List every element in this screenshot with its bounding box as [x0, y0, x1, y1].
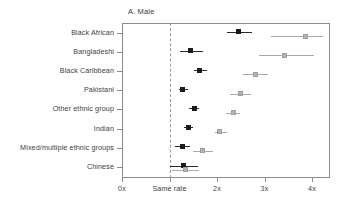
confidence-interval-line — [271, 36, 323, 37]
data-point-marker — [180, 144, 185, 149]
data-point-marker — [197, 68, 202, 73]
data-point-marker — [238, 91, 243, 96]
data-point-marker — [180, 87, 185, 92]
data-point-marker — [303, 34, 308, 39]
data-point-marker — [188, 48, 193, 53]
data-point-marker — [217, 129, 222, 134]
data-series-group — [0, 0, 348, 207]
data-point-marker — [253, 72, 258, 77]
data-point-marker — [200, 148, 205, 153]
data-point-marker — [186, 125, 191, 130]
data-point-marker — [231, 110, 236, 115]
data-point-marker — [183, 167, 188, 172]
forest-plot-figure: A. Male Black AfricanBangladeshiBlack Ca… — [0, 0, 348, 207]
data-point-marker — [236, 29, 241, 34]
data-point-marker — [282, 53, 287, 58]
data-point-marker — [192, 106, 197, 111]
